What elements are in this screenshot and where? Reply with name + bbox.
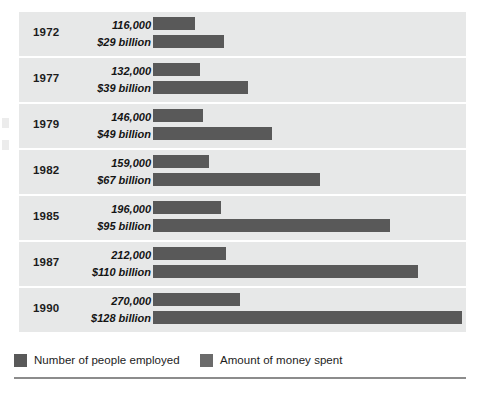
legend-swatch-money <box>200 354 213 367</box>
row-money-value: $128 billion <box>59 310 151 327</box>
row-value-labels: 196,000$95 billion <box>59 201 151 235</box>
bar-money-spent <box>153 81 248 94</box>
bar-money-spent <box>153 35 224 48</box>
row-year-label: 1979 <box>33 118 59 130</box>
row-employed-value: 196,000 <box>59 201 151 218</box>
legend-swatch-employed <box>14 354 27 367</box>
row-money-value: $95 billion <box>59 218 151 235</box>
bar-chart-plot-area: 1972116,000$29 billion1977132,000$39 bil… <box>19 12 466 339</box>
legend-label-employed: Number of people employed <box>34 354 180 366</box>
bar-money-spent <box>153 311 462 324</box>
chart-row: 1972116,000$29 billion <box>19 12 466 56</box>
bar-employed <box>153 109 203 122</box>
row-value-labels: 159,000$67 billion <box>59 155 151 189</box>
bottom-divider-rule <box>14 377 466 379</box>
chart-row: 1985196,000$95 billion <box>19 196 466 240</box>
row-value-labels: 116,000$29 billion <box>59 17 151 51</box>
row-value-labels: 132,000$39 billion <box>59 63 151 97</box>
legend-item-employed: Number of people employed <box>14 351 180 369</box>
chart-row: 1979146,000$49 billion <box>19 104 466 148</box>
row-money-value: $49 billion <box>59 126 151 143</box>
legend-item-money: Amount of money spent <box>200 351 343 369</box>
bar-money-spent <box>153 219 390 232</box>
row-value-labels: 270,000$128 billion <box>59 293 151 327</box>
scan-artifact <box>2 140 9 150</box>
row-year-label: 1982 <box>33 164 59 176</box>
bar-employed <box>153 293 240 306</box>
row-money-value: $39 billion <box>59 80 151 97</box>
row-employed-value: 212,000 <box>59 247 151 264</box>
page-scan-edge <box>0 0 14 399</box>
row-year-label: 1987 <box>33 256 59 268</box>
row-money-value: $67 billion <box>59 172 151 189</box>
bar-money-spent <box>153 265 418 278</box>
row-employed-value: 270,000 <box>59 293 151 310</box>
bar-employed <box>153 17 195 30</box>
row-employed-value: 159,000 <box>59 155 151 172</box>
row-year-label: 1990 <box>33 302 59 314</box>
chart-row: 1977132,000$39 billion <box>19 58 466 102</box>
bar-money-spent <box>153 127 272 140</box>
row-employed-value: 116,000 <box>59 17 151 34</box>
row-year-label: 1985 <box>33 210 59 222</box>
bar-employed <box>153 63 200 76</box>
chart-row: 1987212,000$110 billion <box>19 242 466 286</box>
row-employed-value: 146,000 <box>59 109 151 126</box>
bar-employed <box>153 201 221 214</box>
row-value-labels: 146,000$49 billion <box>59 109 151 143</box>
scan-artifact <box>2 118 9 128</box>
bar-employed <box>153 247 226 260</box>
bar-employed <box>153 155 209 168</box>
row-employed-value: 132,000 <box>59 63 151 80</box>
row-money-value: $110 billion <box>59 264 151 281</box>
row-year-label: 1977 <box>33 72 59 84</box>
row-year-label: 1972 <box>33 26 59 38</box>
row-money-value: $29 billion <box>59 34 151 51</box>
row-value-labels: 212,000$110 billion <box>59 247 151 281</box>
chart-row: 1990270,000$128 billion <box>19 288 466 332</box>
legend-label-money: Amount of money spent <box>220 354 343 366</box>
chart-row: 1982159,000$67 billion <box>19 150 466 194</box>
bar-money-spent <box>153 173 320 186</box>
